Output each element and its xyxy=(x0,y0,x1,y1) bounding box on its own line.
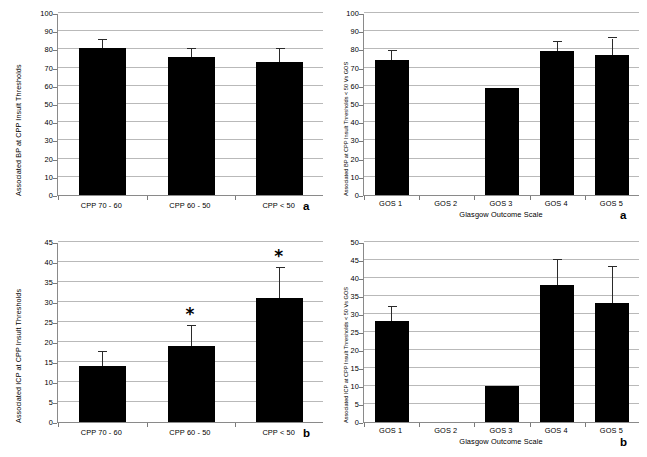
x-axis-label: GOS 4 xyxy=(529,427,584,434)
x-tick-mark xyxy=(585,423,586,427)
x-axis-title: Glasgow Outcome Scale xyxy=(363,437,639,446)
bar xyxy=(540,285,574,422)
chart-panel-bottom-right: GOS 1GOS 2GOS 3GOS 4GOS 5051015202530354… xyxy=(0,0,647,457)
error-bar-cap xyxy=(608,266,617,267)
y-tick-mark xyxy=(359,315,363,316)
y-tick-mark xyxy=(359,279,363,280)
x-tick-mark xyxy=(364,423,365,427)
gridline xyxy=(364,241,639,242)
y-tick-label: 40 xyxy=(337,275,359,282)
y-tick-label: 45 xyxy=(337,257,359,264)
y-tick-mark xyxy=(359,369,363,370)
y-tick-mark xyxy=(359,405,363,406)
error-bar xyxy=(391,307,392,321)
x-axis-label: GOS 5 xyxy=(584,427,639,434)
error-bar-cap xyxy=(388,306,397,307)
gridline xyxy=(364,295,639,296)
y-axis-title: Associated ICP at CPP Insult Thresholds … xyxy=(343,287,349,423)
x-axis-label: GOS 2 xyxy=(418,427,473,434)
bar xyxy=(595,303,629,422)
x-tick-mark xyxy=(474,423,475,427)
bar xyxy=(485,386,519,422)
error-bar xyxy=(557,260,558,285)
error-bar xyxy=(612,267,613,303)
gridline xyxy=(364,259,639,260)
x-tick-mark xyxy=(419,423,420,427)
y-tick-mark xyxy=(359,423,363,424)
x-tick-mark xyxy=(530,423,531,427)
x-axis-label: GOS 1 xyxy=(363,427,418,434)
figure-container: CPP 70 - 60CPP 60 - 50CPP < 500102030405… xyxy=(0,0,647,457)
y-tick-mark xyxy=(359,297,363,298)
y-tick-mark xyxy=(359,387,363,388)
y-tick-mark xyxy=(359,333,363,334)
y-tick-mark xyxy=(359,243,363,244)
x-axis-label: GOS 3 xyxy=(473,427,528,434)
y-tick-mark xyxy=(359,261,363,262)
error-bar-cap xyxy=(553,259,562,260)
plot-area xyxy=(363,243,639,423)
panel-letter: b xyxy=(620,436,627,448)
bar xyxy=(375,321,409,422)
gridline xyxy=(364,277,639,278)
y-tick-mark xyxy=(359,351,363,352)
y-tick-label: 50 xyxy=(337,239,359,246)
